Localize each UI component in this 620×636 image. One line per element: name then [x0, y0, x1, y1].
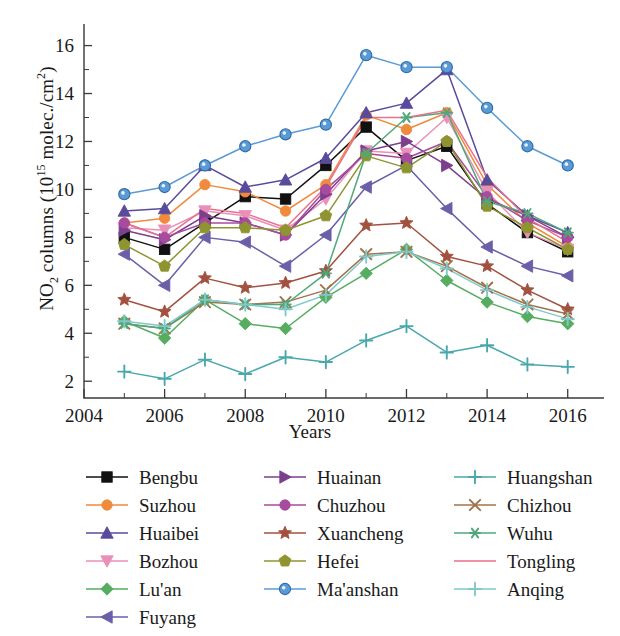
legend-item-xuancheng[interactable]: Xuancheng	[262, 519, 404, 547]
data-point-marker	[562, 270, 573, 282]
legend-sample	[452, 464, 498, 490]
data-point-marker	[279, 276, 292, 288]
legend-item-fuyang[interactable]: Fuyang	[84, 603, 199, 631]
data-point-marker	[239, 236, 250, 248]
chart-legend: BengbuSuzhouHuaibeiBozhouLu'anFuyang Hua…	[0, 463, 620, 636]
data-point-marker	[101, 583, 113, 595]
legend-marker-huangshan	[452, 464, 498, 490]
data-point-marker	[280, 471, 291, 483]
legend-item-anqing[interactable]: Anqing	[452, 575, 592, 603]
data-point-marker	[239, 281, 252, 293]
data-point-marker	[321, 184, 331, 194]
legend-marker-chuzhou	[262, 492, 308, 518]
series-markers-suzhou	[119, 108, 573, 253]
legend-sample	[84, 464, 130, 490]
data-point-marker	[102, 472, 112, 482]
data-point-marker	[360, 219, 373, 231]
legend-item-bozhou[interactable]: Bozhou	[84, 547, 199, 575]
data-point-marker	[279, 174, 291, 185]
legend-item-maanshan[interactable]: Ma'anshan	[262, 575, 404, 603]
legend-marker-bengbu	[84, 464, 130, 490]
legend-sample	[262, 548, 308, 574]
legend-label: Chuzhou	[317, 496, 386, 515]
data-point-marker	[481, 296, 493, 308]
chart-plot-area: 2468101214162004200620082010201220142016…	[0, 0, 620, 450]
data-point-marker	[119, 189, 130, 200]
data-point-marker	[360, 267, 372, 279]
legend-item-suzhou[interactable]: Suzhou	[84, 491, 199, 519]
legend-label: Huaibei	[139, 524, 199, 543]
data-point-marker	[159, 213, 169, 223]
data-point-marker	[320, 119, 331, 130]
data-point-marker	[280, 194, 290, 204]
data-point-marker	[521, 358, 533, 370]
data-point-marker	[118, 293, 131, 305]
data-point-marker	[562, 160, 573, 171]
legend-marker-bozhou	[84, 548, 130, 574]
series-markers-bozhou	[118, 112, 574, 255]
legend-item-bengbu[interactable]: Bengbu	[84, 463, 199, 491]
legend-item-huainan[interactable]: Huainan	[262, 463, 404, 491]
legend-item-huangshan[interactable]: Huangshan	[452, 463, 592, 491]
data-point-marker	[159, 232, 169, 242]
series-line-chuzhou	[124, 141, 567, 237]
data-point-marker	[440, 250, 453, 262]
data-point-marker	[279, 322, 291, 334]
data-point-marker	[158, 320, 170, 332]
data-point-marker	[118, 315, 130, 327]
legend-sample	[262, 520, 308, 546]
legend-item-chuzhou[interactable]: Chuzhou	[262, 491, 404, 519]
legend-marker-wuhu	[452, 520, 498, 546]
data-point-marker	[199, 160, 210, 171]
legend-item-hefei[interactable]: Hefei	[262, 547, 404, 575]
legend-item-wuhu[interactable]: Wuhu	[452, 519, 592, 547]
data-point-marker	[239, 368, 251, 380]
legend-sample	[452, 492, 498, 518]
legend-column-2: HuainanChuzhouXuanchengHefeiMa'anshan	[262, 463, 404, 603]
legend-label: Bengbu	[139, 468, 198, 487]
legend-label: Tongling	[507, 552, 575, 571]
data-point-marker	[469, 583, 481, 595]
data-point-marker	[239, 317, 251, 329]
legend-marker-huainan	[262, 464, 308, 490]
y-tick-label: 2	[65, 371, 75, 392]
y-tick-label: 8	[65, 227, 75, 248]
legend-label: Fuyang	[139, 608, 196, 627]
legend-label: Ma'anshan	[317, 580, 399, 599]
data-point-marker	[481, 259, 494, 271]
data-point-marker	[280, 129, 291, 140]
data-point-marker	[441, 135, 453, 146]
legend-item-chizhou[interactable]: Chizhou	[452, 491, 592, 519]
series-line-bozhou	[124, 118, 567, 250]
legend-label: Huangshan	[507, 468, 592, 487]
legend-item-huaibei[interactable]: Huaibei	[84, 519, 199, 547]
y-tick-label: 4	[65, 323, 75, 344]
legend-label: Suzhou	[139, 496, 196, 515]
series-markers-bengbu	[119, 122, 573, 257]
legend-marker-luan	[84, 576, 130, 602]
data-point-marker	[279, 260, 290, 272]
legend-marker-xuancheng	[262, 520, 308, 546]
data-point-marker	[401, 124, 411, 134]
data-point-marker	[101, 611, 112, 623]
data-point-marker	[102, 500, 112, 510]
series-lines-layer	[124, 55, 567, 379]
x-axis-title: Years	[0, 421, 620, 443]
data-point-marker	[361, 50, 372, 61]
legend-marker-suzhou	[84, 492, 130, 518]
series-line-bengbu	[124, 127, 567, 252]
series-markers-hefei	[118, 135, 573, 271]
data-point-marker	[280, 206, 290, 216]
legend-marker-maanshan	[262, 576, 308, 602]
legend-marker-fuyang	[84, 604, 130, 630]
legend-sample	[84, 492, 130, 518]
legend-sample	[84, 576, 130, 602]
data-point-marker	[522, 141, 533, 152]
legend-label: Xuancheng	[317, 524, 404, 543]
legend-item-luan[interactable]: Lu'an	[84, 575, 199, 603]
data-point-marker	[521, 260, 532, 272]
data-point-marker	[469, 471, 481, 483]
legend-item-tongling[interactable]: Tongling	[452, 547, 592, 575]
line-chart-svg: 2468101214162004200620082010201220142016	[0, 0, 620, 450]
data-point-marker	[401, 135, 412, 147]
